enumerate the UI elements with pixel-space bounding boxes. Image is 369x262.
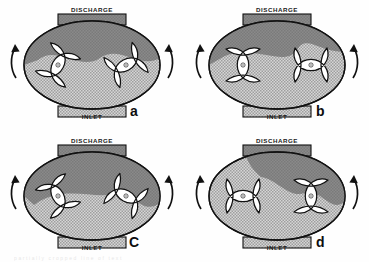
panel-letter-c: C — [129, 235, 139, 249]
panel-c: DISCHARGE INLET C — [0, 131, 184, 262]
left-rotation-arrow — [196, 175, 204, 209]
discharge-label: DISCHARGE — [185, 137, 369, 144]
panel-letter-a: a — [130, 104, 138, 118]
lobe-pump-cycle-figure: DISCHARGE INLET a — [0, 0, 369, 262]
right-rotor-hub — [124, 194, 128, 198]
discharge-label: DISCHARGE — [0, 137, 184, 144]
right-rotation-arrow — [164, 175, 172, 209]
left-rotor-hub — [241, 63, 245, 67]
panel-a: DISCHARGE INLET a — [0, 0, 184, 131]
right-rotor-hub — [309, 194, 313, 198]
left-rotor-hub — [56, 194, 60, 198]
right-rotation-arrow — [349, 44, 357, 78]
inlet-label: INLET — [185, 113, 369, 120]
cropped-caption-artifact: partially cropped line of text — [0, 255, 369, 262]
panel-letter-d: d — [316, 235, 325, 249]
discharge-label: DISCHARGE — [0, 6, 184, 13]
pump-casing — [209, 152, 345, 240]
right-rotation-arrow — [164, 44, 172, 78]
left-rotation-arrow — [196, 44, 204, 78]
right-rotor-hub — [124, 63, 128, 67]
panel-d: DISCHARGE INLET d — [185, 131, 369, 262]
left-rotor-hub — [56, 63, 60, 67]
right-rotor-hub — [309, 63, 313, 67]
pump-casing — [209, 21, 345, 109]
discharge-label: DISCHARGE — [185, 6, 369, 13]
cropped-caption-text: partially cropped line of text — [0, 255, 369, 261]
left-rotation-arrow — [11, 175, 19, 209]
left-rotor-hub — [241, 194, 245, 198]
left-rotation-arrow — [11, 44, 19, 78]
inlet-label: INLET — [0, 113, 184, 120]
panel-b: DISCHARGE INLET b — [185, 0, 369, 131]
inlet-label: INLET — [0, 244, 184, 251]
inlet-label: INLET — [185, 244, 369, 251]
panel-letter-b: b — [316, 104, 325, 118]
right-rotation-arrow — [349, 175, 357, 209]
